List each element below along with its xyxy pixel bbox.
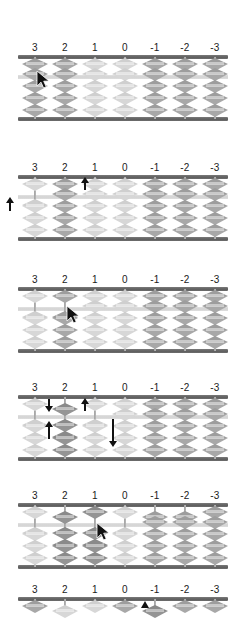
earth-bead[interactable]: [112, 336, 138, 349]
column-label: 1: [80, 583, 110, 597]
bottom-rail: [18, 349, 228, 353]
heaven-bead[interactable]: [22, 290, 48, 303]
earth-bead[interactable]: [202, 104, 228, 117]
heaven-bead[interactable]: [22, 600, 48, 613]
column-label: 2: [50, 489, 80, 503]
column-label: -1: [140, 273, 170, 287]
heaven-bead[interactable]: [52, 605, 78, 618]
annotation-arrow-down: [109, 419, 117, 447]
earth-bead[interactable]: [142, 104, 168, 117]
column-label: 1: [80, 381, 110, 395]
column-label: 0: [110, 583, 140, 597]
earth-bead[interactable]: [202, 224, 228, 237]
column-label: 0: [110, 273, 140, 287]
earth-bead[interactable]: [22, 444, 48, 457]
earth-bead[interactable]: [142, 224, 168, 237]
heaven-bead[interactable]: [112, 506, 138, 519]
earth-bead[interactable]: [202, 336, 228, 349]
heaven-bead[interactable]: [52, 403, 78, 416]
column-label: 3: [20, 273, 50, 287]
heaven-bead[interactable]: [22, 506, 48, 519]
abacus-step-3-labels: 3210-1-2-3: [18, 273, 228, 287]
earth-bead[interactable]: [52, 552, 78, 565]
column-label: 3: [20, 583, 50, 597]
column-label: -2: [170, 273, 200, 287]
earth-bead[interactable]: [82, 104, 108, 117]
earth-bead[interactable]: [52, 444, 78, 457]
column-label: -3: [200, 273, 230, 287]
earth-bead[interactable]: [22, 224, 48, 237]
column-label: 1: [80, 273, 110, 287]
column-label: 2: [50, 161, 80, 175]
earth-bead[interactable]: [82, 224, 108, 237]
earth-bead[interactable]: [112, 104, 138, 117]
abacus-step-6: [18, 597, 228, 629]
earth-bead[interactable]: [172, 104, 198, 117]
earth-bead[interactable]: [172, 224, 198, 237]
bottom-rail: [18, 565, 228, 569]
column-label: 1: [80, 489, 110, 503]
earth-bead[interactable]: [142, 552, 168, 565]
annotation-arrow-up: [6, 197, 14, 211]
earth-bead[interactable]: [112, 552, 138, 565]
column-label: -2: [170, 583, 200, 597]
column-label: -3: [200, 381, 230, 395]
pointer-cursor: [96, 523, 112, 541]
heaven-bead[interactable]: [82, 600, 108, 613]
column-label: 1: [80, 41, 110, 55]
heaven-bead[interactable]: [22, 178, 48, 191]
column-label: 0: [110, 41, 140, 55]
pointer-cursor: [66, 306, 82, 324]
earth-bead[interactable]: [172, 552, 198, 565]
bottom-rail: [18, 237, 228, 241]
column-label: 3: [20, 41, 50, 55]
pointer-cursor: [36, 71, 52, 89]
earth-bead[interactable]: [172, 444, 198, 457]
column-label: -2: [170, 381, 200, 395]
heaven-bead[interactable]: [172, 600, 198, 613]
column-label: -1: [140, 489, 170, 503]
abacus-step-6-labels: 3210-1-2-3: [18, 583, 228, 597]
earth-bead[interactable]: [82, 552, 108, 565]
earth-bead[interactable]: [52, 336, 78, 349]
heaven-bead[interactable]: [202, 600, 228, 613]
column-label: -1: [140, 41, 170, 55]
earth-bead[interactable]: [22, 104, 48, 117]
column-label: 3: [20, 161, 50, 175]
earth-bead[interactable]: [202, 552, 228, 565]
earth-bead[interactable]: [172, 336, 198, 349]
abacus-sequence: 3210-1-2-33210-1-2-33210-1-2-33210-1-2-3…: [0, 0, 246, 629]
column-label: 0: [110, 161, 140, 175]
column-label: -2: [170, 161, 200, 175]
earth-bead[interactable]: [52, 224, 78, 237]
column-label: 2: [50, 583, 80, 597]
column-label: -3: [200, 583, 230, 597]
heaven-bead[interactable]: [82, 506, 108, 519]
earth-bead[interactable]: [112, 224, 138, 237]
heaven-bead[interactable]: [52, 511, 78, 524]
heaven-bead[interactable]: [52, 290, 78, 303]
bottom-rail: [18, 457, 228, 461]
abacus-step-2: [18, 175, 228, 241]
column-label: -3: [200, 41, 230, 55]
column-label: -3: [200, 489, 230, 503]
earth-bead[interactable]: [82, 444, 108, 457]
column-label: 0: [110, 381, 140, 395]
earth-bead[interactable]: [82, 336, 108, 349]
earth-bead[interactable]: [22, 552, 48, 565]
heaven-bead[interactable]: [112, 600, 138, 613]
column-label: -1: [140, 583, 170, 597]
earth-bead[interactable]: [22, 336, 48, 349]
column-label: -1: [140, 381, 170, 395]
earth-bead[interactable]: [52, 104, 78, 117]
earth-bead[interactable]: [142, 444, 168, 457]
abacus-step-2-labels: 3210-1-2-3: [18, 161, 228, 175]
abacus-step-5: [18, 503, 228, 569]
earth-bead[interactable]: [142, 336, 168, 349]
column-label: 3: [20, 489, 50, 503]
column-label: -3: [200, 161, 230, 175]
column-label: -2: [170, 41, 200, 55]
earth-bead[interactable]: [202, 444, 228, 457]
column-label: 3: [20, 381, 50, 395]
abacus-step-1-labels: 3210-1-2-3: [18, 41, 228, 55]
